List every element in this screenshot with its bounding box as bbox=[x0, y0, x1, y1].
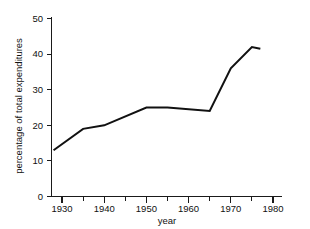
y-tick-label-0: 0 bbox=[38, 191, 43, 202]
x-tick-label-1930: 1930 bbox=[51, 203, 72, 214]
y-tick-label-40: 40 bbox=[32, 48, 43, 59]
x-tick-label-1950: 1950 bbox=[136, 203, 157, 214]
y-tick-label-30: 30 bbox=[32, 84, 43, 95]
y-tick-label-10: 10 bbox=[32, 155, 43, 166]
chart-figure: 50 40 30 20 10 0 1930 1940 1950 1960 197… bbox=[0, 0, 310, 229]
y-axis-ticks bbox=[47, 19, 52, 197]
y-tick-label-50: 50 bbox=[32, 13, 43, 24]
x-axis-title: year bbox=[158, 215, 176, 226]
data-series-line bbox=[54, 47, 261, 150]
x-tick-label-1970: 1970 bbox=[220, 203, 241, 214]
y-tick-label-20: 20 bbox=[32, 120, 43, 131]
x-tick-label-1960: 1960 bbox=[178, 203, 199, 214]
x-axis-minor-ticks bbox=[83, 197, 252, 202]
x-tick-label-1980: 1980 bbox=[262, 203, 283, 214]
x-tick-label-1940: 1940 bbox=[94, 203, 115, 214]
y-axis-title: percentage of total expenditures bbox=[13, 38, 24, 174]
line-chart-plot: 50 40 30 20 10 0 1930 1940 1950 1960 197… bbox=[0, 0, 310, 229]
